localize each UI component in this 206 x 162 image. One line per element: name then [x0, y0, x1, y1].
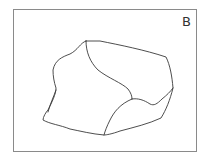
flake-scar — [48, 90, 56, 112]
ridge-right — [132, 88, 173, 105]
ridge-lower — [104, 99, 132, 135]
ridge-upper — [86, 41, 132, 99]
artifact-outline — [43, 41, 173, 135]
artifact-drawing — [0, 0, 206, 162]
